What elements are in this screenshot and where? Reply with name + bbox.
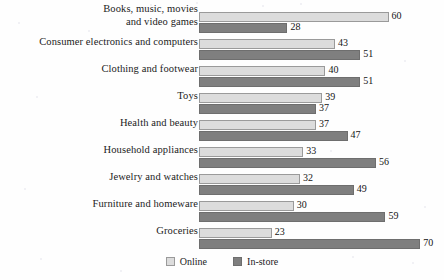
- bar-value-label: 28: [290, 21, 300, 33]
- category-label: Consumer electronics and computers: [8, 36, 198, 49]
- category-label: Clothing and footwear: [8, 63, 198, 76]
- bar-wrapper: 32: [199, 174, 444, 184]
- category-label-line: Groceries: [8, 225, 198, 238]
- scan-artifact: [88, 30, 90, 32]
- bar-wrapper: 30: [199, 201, 444, 211]
- bar-wrapper: 51: [199, 77, 444, 87]
- bar-group: 3249: [199, 174, 444, 195]
- category-label-line: Jewelry and watches: [8, 171, 198, 184]
- category-label: Jewelry and watches: [8, 171, 198, 184]
- bar-online[interactable]: [199, 66, 325, 76]
- bar-chart: Books, music, moviesand video games6028C…: [0, 0, 444, 280]
- bar-online[interactable]: [199, 120, 316, 130]
- scan-artifact: [24, 188, 26, 190]
- bar-group: 6028: [199, 12, 444, 33]
- bar-online[interactable]: [199, 201, 294, 211]
- bar-online[interactable]: [199, 12, 389, 22]
- bar-group: 3356: [199, 147, 444, 168]
- bar-wrapper: 37: [199, 104, 444, 114]
- category-label: Household appliances: [8, 144, 198, 157]
- chart-row: Books, music, moviesand video games6028: [0, 9, 444, 36]
- scan-artifact: [330, 150, 332, 152]
- bar-instore[interactable]: [199, 50, 360, 60]
- chart-row: Jewelry and watches3249: [0, 171, 444, 198]
- category-label-line: Health and beauty: [8, 117, 198, 130]
- bar-online[interactable]: [199, 174, 300, 184]
- scan-artifact: [36, 96, 38, 98]
- bar-instore[interactable]: [199, 185, 354, 195]
- bar-wrapper: 51: [199, 50, 444, 60]
- instore-swatch: [233, 257, 242, 266]
- bar-value-label: 37: [319, 102, 329, 114]
- category-label-line: Furniture and homeware: [8, 198, 198, 211]
- bar-instore[interactable]: [199, 77, 360, 87]
- chart-legend: OnlineIn-store: [0, 256, 444, 267]
- bar-instore[interactable]: [199, 23, 287, 33]
- bar-value-label: 37: [319, 118, 329, 130]
- category-label: Groceries: [8, 225, 198, 238]
- legend-entry[interactable]: In-store: [233, 256, 278, 267]
- legend-label: Online: [180, 256, 207, 267]
- bar-value-label: 51: [363, 48, 373, 60]
- scan-artifact: [40, 258, 42, 260]
- bar-wrapper: 23: [199, 228, 444, 238]
- scan-artifact: [120, 270, 122, 272]
- bar-wrapper: 28: [199, 23, 444, 33]
- bar-wrapper: 40: [199, 66, 444, 76]
- bar-online[interactable]: [199, 228, 272, 238]
- bar-wrapper: 56: [199, 158, 444, 168]
- chart-row: Clothing and footwear4051: [0, 63, 444, 90]
- bar-instore[interactable]: [199, 212, 385, 222]
- bar-online[interactable]: [199, 147, 303, 157]
- bar-value-label: 23: [275, 226, 285, 238]
- bar-wrapper: 60: [199, 12, 444, 22]
- bar-instore[interactable]: [199, 131, 348, 141]
- bar-online[interactable]: [199, 39, 335, 49]
- chart-row: Groceries2370: [0, 225, 444, 252]
- bar-online[interactable]: [199, 93, 322, 103]
- legend-entry[interactable]: Online: [166, 256, 207, 267]
- bar-value-label: 47: [351, 129, 361, 141]
- bar-instore[interactable]: [199, 104, 316, 114]
- bar-value-label: 32: [303, 172, 313, 184]
- bar-value-label: 33: [306, 145, 316, 157]
- chart-row: Household appliances3356: [0, 144, 444, 171]
- bar-value-label: 40: [328, 64, 338, 76]
- bar-value-label: 51: [363, 75, 373, 87]
- bar-value-label: 56: [379, 156, 389, 168]
- bar-wrapper: 43: [199, 39, 444, 49]
- category-label: Health and beauty: [8, 117, 198, 130]
- bar-wrapper: 37: [199, 120, 444, 130]
- bar-wrapper: 49: [199, 185, 444, 195]
- bar-value-label: 70: [423, 237, 433, 249]
- scan-artifact: [18, 22, 20, 24]
- bar-value-label: 49: [357, 183, 367, 195]
- bar-group: 4351: [199, 39, 444, 60]
- category-label-line: Books, music, movies: [8, 3, 198, 16]
- scan-artifact: [262, 5, 264, 7]
- scan-artifact: [196, 2, 198, 4]
- category-label: Books, music, moviesand video games: [8, 3, 198, 28]
- bar-wrapper: 59: [199, 212, 444, 222]
- bar-instore[interactable]: [199, 158, 376, 168]
- scan-artifact: [404, 60, 406, 62]
- bar-instore[interactable]: [199, 239, 420, 249]
- bar-wrapper: 39: [199, 93, 444, 103]
- bar-group: 3059: [199, 201, 444, 222]
- bar-group: 2370: [199, 228, 444, 249]
- bar-wrapper: 33: [199, 147, 444, 157]
- chart-row: Consumer electronics and computers4351: [0, 36, 444, 63]
- bar-value-label: 59: [388, 210, 398, 222]
- category-label-line: Clothing and footwear: [8, 63, 198, 76]
- legend-label: In-store: [247, 256, 278, 267]
- scan-artifact: [412, 262, 414, 264]
- scan-artifact: [300, 3, 302, 5]
- chart-row: Furniture and homeware3059: [0, 198, 444, 225]
- scan-artifact: [424, 206, 426, 208]
- bar-group: 3747: [199, 120, 444, 141]
- category-label-line: Household appliances: [8, 144, 198, 157]
- bar-group: 4051: [199, 66, 444, 87]
- category-label-line: Consumer electronics and computers: [8, 36, 198, 49]
- plot-area: Books, music, moviesand video games6028C…: [0, 9, 444, 249]
- bar-value-label: 43: [338, 37, 348, 49]
